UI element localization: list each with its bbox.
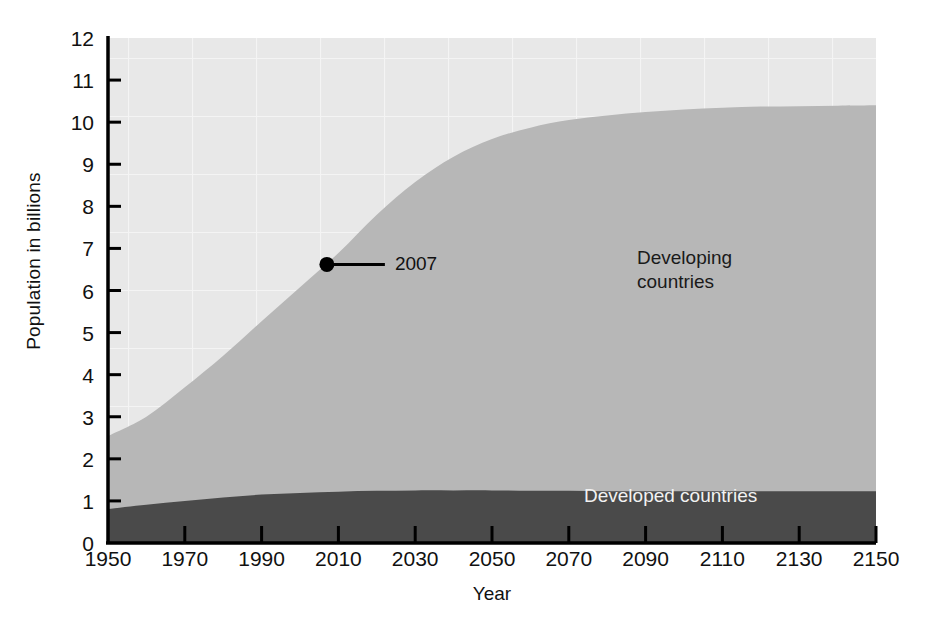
population-projection-area-chart bbox=[0, 0, 940, 620]
annotation-label-2007: 2007 bbox=[395, 253, 437, 275]
y-tick-label-6: 6 bbox=[54, 280, 94, 301]
x-tick-label-2010: 2010 bbox=[315, 548, 362, 569]
y-axis-title: Population in billions bbox=[23, 151, 45, 371]
y-tick-label-7: 7 bbox=[54, 238, 94, 259]
x-tick-label-2130: 2130 bbox=[776, 548, 823, 569]
series-label-developing-countries: Developing countries bbox=[637, 246, 732, 294]
x-tick-label-1990: 1990 bbox=[238, 548, 285, 569]
y-tick-label-8: 8 bbox=[54, 196, 94, 217]
series-label-developed-countries: Developed countries bbox=[584, 484, 757, 508]
y-tick-label-10: 10 bbox=[54, 112, 94, 133]
y-tick-label-3: 3 bbox=[54, 406, 94, 427]
x-tick-label-2070: 2070 bbox=[545, 548, 592, 569]
x-tick-label-1970: 1970 bbox=[161, 548, 208, 569]
y-tick-label-9: 9 bbox=[54, 154, 94, 175]
x-tick-label-2110: 2110 bbox=[700, 548, 745, 569]
y-tick-label-11: 11 bbox=[54, 70, 94, 91]
y-tick-label-1: 1 bbox=[54, 490, 94, 511]
x-tick-label-2090: 2090 bbox=[622, 548, 669, 569]
y-tick-label-12: 12 bbox=[54, 28, 94, 49]
x-tick-label-1950: 1950 bbox=[85, 548, 132, 569]
x-tick-label-2050: 2050 bbox=[469, 548, 516, 569]
y-tick-label-5: 5 bbox=[54, 322, 94, 343]
chart-figure: Population in billions Year 012345678910… bbox=[0, 0, 940, 620]
x-axis-title: Year bbox=[108, 583, 876, 605]
y-tick-label-2: 2 bbox=[54, 448, 94, 469]
x-tick-label-2150: 2150 bbox=[853, 548, 900, 569]
x-tick-label-2030: 2030 bbox=[392, 548, 439, 569]
y-tick-label-4: 4 bbox=[54, 364, 94, 385]
